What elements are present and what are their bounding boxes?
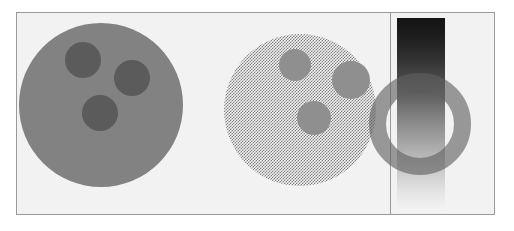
dithered-disc-spot-upper-left xyxy=(279,49,311,81)
translucent-ring xyxy=(369,73,471,175)
figure-plate xyxy=(16,12,495,215)
opaque-disc-spot-upper-right xyxy=(114,60,150,96)
dithered-disc-spot-lower xyxy=(297,101,331,135)
opaque-disc-spot-lower xyxy=(82,95,118,131)
dithered-disc-spot-upper-right xyxy=(332,61,370,99)
opaque-disc-spot-upper-left xyxy=(65,42,101,78)
figure-root xyxy=(0,0,514,231)
